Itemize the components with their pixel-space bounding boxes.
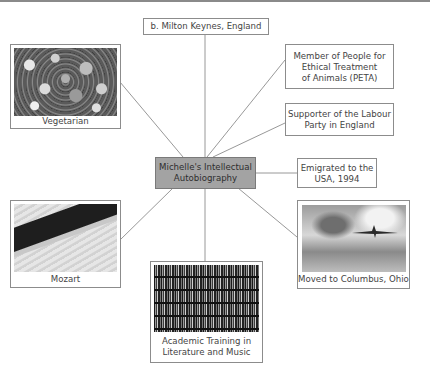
vegetables-photo (14, 48, 117, 116)
node-vegetarian: Vegetarian (10, 44, 121, 129)
clarinet-photo (14, 204, 117, 272)
central-topic: Michelle's Intellectual Autobiography (155, 157, 256, 189)
connector-columbus (238, 188, 297, 237)
node-emigrated-line2: USA, 1994 (298, 174, 376, 185)
bookshelves-photo (154, 265, 259, 332)
node-emigrated: Emigrated to the USA, 1994 (297, 158, 377, 188)
central-topic-line1: Michelle's Intellectual (156, 162, 255, 173)
node-peta-line3: of Animals (PETA) (286, 73, 393, 84)
connector-vegetarian (120, 82, 183, 157)
node-vegetarian-label: Vegetarian (11, 116, 120, 127)
node-academic-label-line2: Literature and Music (151, 347, 262, 358)
node-peta-line2: Ethical Treatment (286, 62, 393, 73)
airplane-photo (302, 205, 406, 272)
node-mozart: Mozart (10, 200, 121, 288)
node-labour-line1: Supporter of the Labour (286, 109, 393, 120)
node-peta-line1: Member of People for (286, 51, 393, 62)
airplane-icon (352, 225, 398, 239)
node-peta: Member of People for Ethical Treatment o… (285, 44, 394, 89)
node-emigrated-line1: Emigrated to the (298, 163, 376, 174)
node-labour: Supporter of the Labour Party in England (285, 103, 394, 136)
central-topic-line2: Autobiography (156, 173, 255, 184)
node-academic-label-line1: Academic Training in (151, 336, 262, 347)
node-columbus: Moved to Columbus, Ohio (297, 200, 410, 289)
node-labour-line2: Party in England (286, 120, 393, 131)
connector-labour (213, 123, 285, 157)
node-birthplace-label: b. Milton Keynes, England (150, 21, 261, 32)
connector-peta (207, 60, 285, 157)
node-mozart-label: Mozart (11, 274, 120, 285)
node-birthplace: b. Milton Keynes, England (143, 18, 269, 35)
node-academic: Academic Training in Literature and Musi… (150, 261, 263, 363)
node-columbus-label: Moved to Columbus, Ohio (298, 274, 409, 285)
connector-mozart (120, 188, 173, 240)
